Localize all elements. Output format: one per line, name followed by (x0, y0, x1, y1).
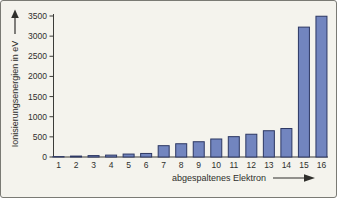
x-tick-label: 6 (144, 160, 149, 170)
y-axis-label: Ionisierungsenergien in eV (10, 41, 20, 148)
y-axis-ticks: 0500100015002000250030003500 (28, 11, 53, 162)
y-tick-label: 3500 (28, 11, 47, 21)
bar (123, 154, 134, 157)
bar (141, 153, 152, 157)
y-tick-label: 2500 (28, 51, 47, 61)
bar (193, 142, 204, 157)
bar (71, 156, 82, 157)
x-tick-label: 2 (74, 160, 79, 170)
y-axis-arrow-icon (11, 10, 19, 35)
x-tick-label: 8 (179, 160, 184, 170)
y-tick-label: 3000 (28, 31, 47, 41)
y-tick-label: 500 (33, 132, 47, 142)
x-tick-label: 14 (282, 160, 292, 170)
x-axis-label: abgespaltenes Elektron (172, 173, 266, 183)
x-tick-label: 15 (299, 160, 309, 170)
x-tick-label: 7 (161, 160, 166, 170)
x-tick-label: 9 (196, 160, 201, 170)
bar (106, 155, 117, 157)
x-axis-tick-labels: 12345678910111213141516 (56, 160, 326, 170)
x-tick-label: 12 (247, 160, 257, 170)
y-tick-label: 0 (42, 152, 47, 162)
bar (211, 139, 222, 157)
bar (88, 156, 99, 157)
x-tick-label: 1 (56, 160, 61, 170)
bar (298, 27, 309, 157)
bar (228, 137, 239, 157)
bar (158, 146, 169, 157)
x-tick-label: 16 (317, 160, 327, 170)
bar (246, 134, 257, 157)
bar (176, 144, 187, 157)
bars (53, 16, 327, 157)
y-tick-label: 1500 (28, 92, 47, 102)
x-tick-label: 10 (212, 160, 222, 170)
ionization-energy-bar-chart: Ionisierungsenergien in eV 0500100015002… (1, 1, 337, 198)
x-tick-label: 11 (229, 160, 238, 170)
bar (316, 16, 327, 157)
y-tick-label: 1000 (28, 112, 47, 122)
x-tick-label: 13 (264, 160, 274, 170)
bar (281, 129, 292, 157)
bar (263, 131, 274, 157)
x-tick-label: 3 (91, 160, 96, 170)
y-tick-label: 2000 (28, 71, 47, 81)
chart-frame: Ionisierungsenergien in eV 0500100015002… (0, 0, 337, 198)
x-tick-label: 4 (109, 160, 114, 170)
x-axis-arrow-icon (273, 174, 315, 182)
x-tick-label: 5 (126, 160, 131, 170)
